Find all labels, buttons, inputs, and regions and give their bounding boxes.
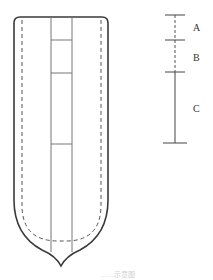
diagram-canvas: A B C ……示意图 (0, 0, 213, 280)
scale-bar: A B C (163, 15, 201, 143)
label-c: C (193, 103, 200, 114)
figure-caption: ……示意图 (100, 270, 135, 279)
outer-container-outline (14, 17, 108, 266)
label-a: A (193, 22, 201, 33)
label-b: B (193, 52, 200, 63)
inner-dashed-outline (22, 20, 101, 241)
